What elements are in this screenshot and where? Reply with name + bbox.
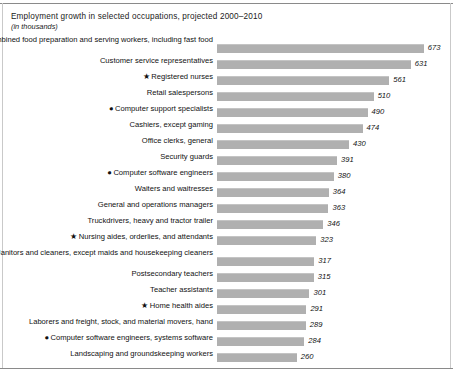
star-marker-icon: ★ — [141, 302, 148, 311]
bar-category-label: General and operations managers — [0, 201, 213, 210]
bar-value-label: 490 — [372, 107, 385, 117]
bar-category-text: Waiters and waitresses — [135, 184, 213, 193]
bar-row: Janitors and cleaners, except maids and … — [0, 249, 453, 270]
bar-category-text: Registered nurses — [151, 72, 213, 81]
dot-marker-icon: ● — [109, 105, 114, 114]
bar-value-label: 364 — [333, 187, 346, 197]
bar-category-label: Combined food preparation and serving wo… — [0, 36, 213, 45]
bar-category-text: Teacher assistants — [150, 285, 213, 294]
bar — [217, 156, 337, 165]
bar-value-label: 346 — [327, 219, 340, 229]
bar-row: ★Registered nurses561 — [0, 73, 453, 89]
bar-category-text: Office clerks, general — [142, 136, 213, 145]
bar-category-label: Landscaping and groundskeeping workers — [0, 350, 213, 359]
bar-category-text: Home health aides — [150, 301, 213, 310]
bar-value-label: 380 — [338, 171, 351, 181]
bar — [217, 172, 334, 181]
bar-category-label: Postsecondary teachers — [0, 270, 213, 279]
bar-track: 363 — [217, 204, 432, 213]
bar-category-label: Retail salespersons — [0, 89, 213, 98]
bar — [217, 204, 328, 213]
bar-value-label: 323 — [320, 235, 333, 245]
bar-track: 673 — [217, 44, 432, 53]
bar-track: 346 — [217, 220, 432, 229]
bar-category-label: Security guards — [0, 153, 213, 162]
bar-value-label: 289 — [310, 320, 323, 330]
bar — [217, 92, 374, 101]
bar — [217, 108, 368, 117]
bar-value-label: 363 — [332, 203, 345, 213]
bar-track: 284 — [217, 337, 432, 346]
bar-row: Retail salespersons510 — [0, 89, 453, 105]
bar-row: Teacher assistants301 — [0, 286, 453, 302]
bar-category-label: Truckdrivers, heavy and tractor trailer — [0, 217, 213, 226]
bar-category-text: Nursing aides, orderlies, and attendants — [79, 232, 213, 241]
bar-category-text: Security guards — [160, 152, 213, 161]
bar — [217, 124, 363, 133]
bar-category-label: Teacher assistants — [0, 286, 213, 295]
bar — [217, 44, 424, 53]
bar-row: Truckdrivers, heavy and tractor trailer3… — [0, 217, 453, 233]
bar-category-text: Retail salespersons — [147, 88, 213, 97]
bar-value-label: 317 — [318, 256, 331, 266]
bar — [217, 353, 297, 362]
bar-track: 391 — [217, 156, 432, 165]
bar — [217, 76, 389, 85]
bar-value-label: 391 — [341, 155, 354, 165]
bar-track: 490 — [217, 108, 432, 117]
bar-track: 474 — [217, 124, 432, 133]
chart-figure: Employment growth in selected occupation… — [0, 0, 453, 373]
bar-row: Combined food preparation and serving wo… — [0, 36, 453, 57]
star-marker-icon: ★ — [70, 233, 77, 242]
bar-category-label: ●Computer software engineers — [0, 169, 213, 178]
bar-value-label: 474 — [367, 123, 380, 133]
bar-row: Waiters and waitresses364 — [0, 185, 453, 201]
star-marker-icon: ★ — [143, 73, 150, 82]
bar-category-label: ★Home health aides — [0, 302, 213, 311]
bar — [217, 140, 349, 149]
bar-value-label: 631 — [415, 59, 428, 69]
bar-track: 317 — [217, 257, 432, 266]
bar-row: Cashiers, except gaming474 — [0, 121, 453, 137]
bar-value-label: 673 — [428, 43, 441, 53]
bar-row: Postsecondary teachers315 — [0, 270, 453, 286]
bar-category-label: Cashiers, except gaming — [0, 121, 213, 130]
bar-row: General and operations managers363 — [0, 201, 453, 217]
bar-category-text: Janitors and cleaners, except maids and … — [0, 248, 213, 257]
bar-category-text: Postsecondary teachers — [132, 269, 213, 278]
bar-track: 430 — [217, 140, 432, 149]
bar — [217, 305, 306, 314]
bar-category-text: Cashiers, except gaming — [129, 120, 213, 129]
bar-row: Landscaping and groundskeeping workers26… — [0, 350, 453, 366]
bar-track: 631 — [217, 60, 432, 69]
bar-category-text: Customer service representatives — [100, 56, 213, 65]
bar-value-label: 430 — [353, 139, 366, 149]
bar-category-label: Laborers and freight, stock, and materia… — [0, 318, 213, 327]
figure-border-top — [0, 3, 453, 4]
bar-row: ●Computer software engineers, systems so… — [0, 334, 453, 350]
chart-title: Employment growth in selected occupation… — [11, 12, 262, 22]
dot-marker-icon: ● — [107, 169, 112, 178]
bar-category-text: Combined food preparation and serving wo… — [0, 35, 213, 44]
bar-value-label: 315 — [318, 272, 331, 282]
bar-track: 260 — [217, 353, 432, 362]
bar-track: 380 — [217, 172, 432, 181]
bar-category-label: Office clerks, general — [0, 137, 213, 146]
bar-value-label: 561 — [393, 75, 406, 85]
bar-category-text: Landscaping and groundskeeping workers — [70, 349, 213, 358]
bar-row: ★Nursing aides, orderlies, and attendant… — [0, 233, 453, 249]
bar-category-label: ●Computer support specialists — [0, 105, 213, 114]
bar — [217, 220, 323, 229]
bar-value-label: 510 — [378, 91, 391, 101]
bar-track: 315 — [217, 273, 432, 282]
bar — [217, 337, 304, 346]
bar-track: 510 — [217, 92, 432, 101]
figure-border-bottom — [0, 368, 453, 369]
bar-row: ●Computer software engineers380 — [0, 169, 453, 185]
bar-value-label: 291 — [310, 304, 323, 314]
bar-value-label: 284 — [308, 336, 321, 346]
chart-subtitle: (in thousands) — [11, 22, 58, 31]
bar-track: 561 — [217, 76, 432, 85]
bar-category-label: Customer service representatives — [0, 57, 213, 66]
bar-value-label: 301 — [313, 288, 326, 298]
